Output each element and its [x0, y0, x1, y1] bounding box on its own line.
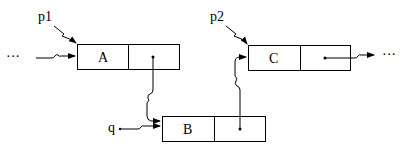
edge-left-to-a — [36, 55, 75, 58]
ellipsis-right: ··· — [382, 47, 396, 62]
node-a-label: A — [98, 50, 109, 65]
edge-b-to-c — [235, 57, 246, 129]
edge-c-to-right — [325, 55, 374, 58]
pointer-label-p2: p2 — [210, 9, 224, 24]
node-a: A — [78, 45, 180, 70]
linked-list-diagram: ··· p1 A q B p2 C ··· — [0, 0, 417, 151]
pointer-label-q: q — [108, 120, 115, 135]
node-b: B — [163, 117, 266, 142]
ellipsis-left: ··· — [6, 49, 20, 64]
pointer-q — [120, 126, 160, 129]
pointer-p2 — [226, 26, 247, 44]
edge-a-to-b — [147, 57, 160, 121]
node-c-label: C — [269, 51, 278, 66]
node-b-label: B — [183, 122, 192, 137]
pointer-label-p1: p1 — [38, 9, 52, 24]
pointer-p1 — [54, 26, 76, 43]
